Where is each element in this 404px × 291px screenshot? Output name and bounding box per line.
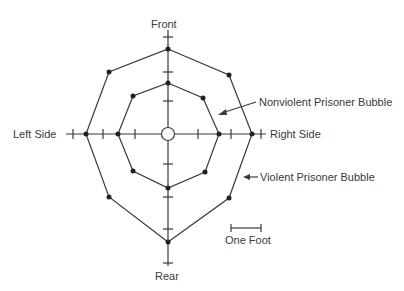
one-foot-label: One Foot [225,234,271,246]
left-side-label: Left Side [13,128,56,140]
violent-prisoner-bubble [86,49,252,242]
front-label: Front [151,18,177,30]
vertex-dots [84,47,255,245]
nonviolent-arrowhead-icon [218,109,227,115]
rear-label: Rear [155,270,179,282]
center-person-icon [162,128,175,141]
personal-space-diagram [0,0,404,291]
right-side-label: Right Side [270,128,321,140]
nonviolent-leader-line [222,102,256,113]
violent-callout-label: Violent Prisoner Bubble [260,171,375,183]
nonviolent-callout-label: Nonviolent Prisoner Bubble [259,96,392,108]
violent-arrowhead-icon [243,174,250,180]
one-foot-scale-bar [231,224,261,232]
